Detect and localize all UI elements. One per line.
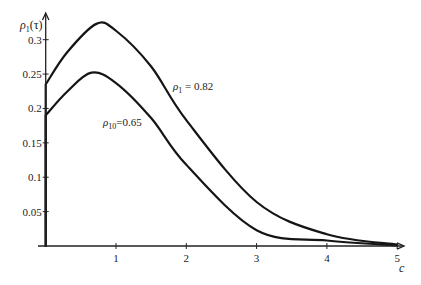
annotation-rho10: ρ10=0.65 [102, 116, 142, 131]
x-tick-label: 2 [184, 252, 190, 264]
y-axis-label: ρ1(τ) [19, 18, 43, 34]
y-tick-label: 0.15 [22, 137, 42, 149]
annotation-rho1: ρ1 = 0.82 [172, 80, 213, 95]
y-tick-label: 0.25 [22, 68, 42, 80]
y-tick-label: 0.2 [28, 102, 42, 114]
y-tick-label: 0.05 [22, 206, 42, 218]
y-tick-label: 0.3 [28, 34, 42, 46]
curves-group [46, 22, 398, 246]
x-tick-label: 3 [254, 252, 260, 264]
y-tick-label: 0.1 [28, 171, 42, 183]
curve-rho10 [46, 72, 398, 246]
x-axis-label: c [399, 261, 405, 275]
curve-rho1 [46, 22, 398, 246]
x-tick-label: 1 [113, 252, 119, 264]
x-tick-label: 4 [324, 252, 330, 264]
line-chart: 0.050.10.150.20.250.3 12345 ρ1(τ) c ρ1 =… [0, 0, 421, 285]
